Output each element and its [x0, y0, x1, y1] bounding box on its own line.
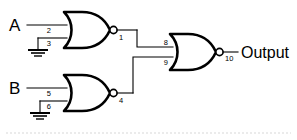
nor-gate-3-body: [170, 34, 216, 70]
nor-gate-2: [27, 75, 133, 111]
pin-label-3: 3: [47, 39, 51, 48]
pin-label-1: 1: [119, 33, 123, 42]
nor-gate-1-bubble: [110, 26, 117, 33]
pin-label-9: 9: [164, 58, 168, 67]
output-label: Output: [241, 44, 290, 61]
nor-gate-1: [27, 12, 137, 48]
nor-gate-2-body: [64, 75, 110, 111]
input-a-label: A: [9, 16, 21, 35]
ground-symbol-top: [28, 38, 48, 56]
logic-circuit-diagram: 2 3 1 5 6 4 8 9 10 A B Output: [0, 0, 297, 140]
pin-label-8: 8: [164, 38, 168, 47]
nor-gate-3-bubble: [216, 48, 223, 55]
nor-gate-1-body: [64, 12, 110, 48]
pin-label-4: 4: [119, 96, 123, 105]
nor-gate-3: [170, 34, 238, 70]
circuit-canvas: 2 3 1 5 6 4 8 9 10 A B Output: [0, 0, 297, 140]
pin-label-10: 10: [225, 54, 233, 63]
nor-gate-2-bubble: [110, 89, 117, 96]
pin-label-2: 2: [47, 26, 51, 35]
pin-label-6: 6: [47, 102, 51, 111]
pin-label-5: 5: [47, 89, 51, 98]
input-b-label: B: [9, 79, 20, 98]
